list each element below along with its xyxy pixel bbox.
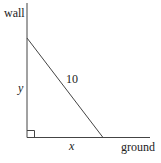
y-label: y: [17, 81, 24, 95]
right-angle-marker: [27, 131, 35, 138]
ladder-line: [27, 38, 103, 138]
ladder-diagram: wall y 10 x ground: [0, 0, 161, 163]
hypotenuse-label: 10: [66, 72, 78, 86]
x-label: x: [68, 139, 75, 153]
ground-label: ground: [121, 140, 155, 154]
wall-label: wall: [4, 6, 25, 20]
